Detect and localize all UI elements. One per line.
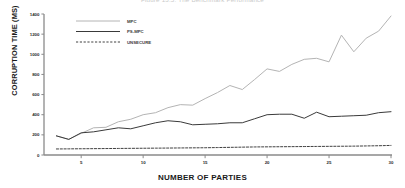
x-axis-tick-label: 25 xyxy=(327,160,332,165)
x-axis-tick-label: 10 xyxy=(141,160,146,165)
legend-label-unsecure: UNSECURE xyxy=(127,40,151,45)
x-axis-tick-label: 20 xyxy=(265,160,270,165)
series-line-unsecure xyxy=(56,145,391,149)
y-axis-tick-label: 400 xyxy=(32,112,40,117)
line-chart-plot: 020040060080010001200140051015202530MPCP… xyxy=(0,0,405,188)
y-axis-tick-label: 600 xyxy=(32,92,40,97)
series-line-mpc xyxy=(56,16,391,139)
y-axis-tick-label: 1200 xyxy=(30,32,40,37)
y-axis-tick-label: 1000 xyxy=(30,52,40,57)
y-axis-tick-label: 200 xyxy=(32,132,40,137)
x-axis-tick-label: 30 xyxy=(389,160,394,165)
y-axis-tick-label: 1400 xyxy=(30,12,40,17)
y-axis-tick-label: 0 xyxy=(37,153,40,158)
x-axis-tick-label: 15 xyxy=(203,160,208,165)
y-axis-tick-label: 800 xyxy=(32,72,40,77)
legend-label-mpc: MPC xyxy=(127,19,137,24)
figure-container: Figure 13.5: The Benchmark Performance C… xyxy=(0,0,405,188)
x-axis-tick-label: 5 xyxy=(80,160,83,165)
series-line-ps-mpc xyxy=(56,112,391,140)
legend-label-ps-mpc: PS-MPC xyxy=(127,29,144,34)
